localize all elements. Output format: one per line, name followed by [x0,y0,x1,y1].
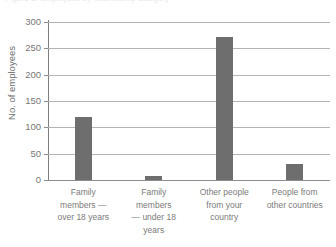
y-axis-tick-mark [44,154,48,155]
x-axis-category-label: Familymembers— under 18years [119,186,190,236]
x-axis-category-label-line: country [189,211,260,224]
bar [216,37,233,180]
y-axis-tick-mark [44,127,48,128]
x-axis-category-label-line: other countries [260,199,331,212]
x-axis-category-label-line: Family [119,186,190,199]
gridline [48,48,330,49]
gridline [48,180,330,181]
x-axis-category-label: Familymembers —over 18 years [48,186,119,224]
y-axis-tick-mark [44,75,48,76]
bar-chart: 050100150200250300 No. of employees Fami… [0,0,336,247]
y-axis-title: No. of employees [7,24,17,142]
x-axis-category-label: People fromother countries [260,186,331,211]
bar [75,117,92,180]
x-axis-category-label-line: members [119,199,190,212]
x-axis-category-label-line: from your [189,199,260,212]
y-axis-tick-mark [44,101,48,102]
x-axis-category-label-line: Other people [189,186,260,199]
x-axis-category-label-line: members — [48,199,119,212]
y-axis-tick-label: 0 [0,175,41,185]
gridline [48,75,330,76]
gridline [48,101,330,102]
x-axis-category-label-line: People from [260,186,331,199]
gridline [48,22,330,23]
x-axis-category-label-line: Family [48,186,119,199]
y-axis-tick-mark [44,22,48,23]
x-axis-category-label-line: years [119,224,190,237]
y-axis-tick-mark [44,180,48,181]
x-axis-category-label: Other peoplefrom yourcountry [189,186,260,224]
x-axis-category-label-line: — under 18 [119,211,190,224]
y-axis-tick-mark [44,48,48,49]
y-axis-tick-label: 50 [0,149,41,159]
bar [145,176,162,180]
plot-area [48,22,330,180]
x-axis-category-labels: Familymembers —over 18 yearsFamilymember… [48,186,330,247]
bar [286,164,303,180]
x-axis-category-label-line: over 18 years [48,211,119,224]
